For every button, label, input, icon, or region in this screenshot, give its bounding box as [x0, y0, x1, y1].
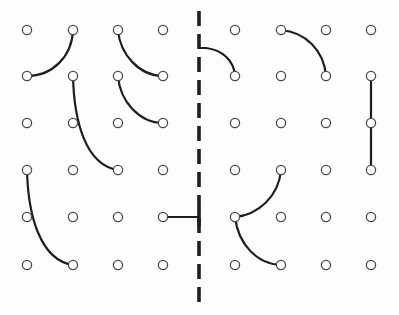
peg-dot — [230, 260, 239, 269]
connection-arc — [27, 170, 73, 265]
peg-dot — [158, 165, 167, 174]
peg-dot — [276, 165, 285, 174]
peg-dot — [276, 118, 285, 127]
peg-dot — [366, 212, 375, 221]
peg-dot — [276, 25, 285, 34]
peg-dot — [158, 260, 167, 269]
peg-dot — [230, 25, 239, 34]
peg-dot — [230, 212, 239, 221]
peg-dot — [68, 71, 77, 80]
peg-dot — [321, 165, 330, 174]
peg-dot — [366, 25, 375, 34]
connection-arc — [235, 217, 281, 265]
peg-dot — [22, 165, 31, 174]
connection-arc — [118, 76, 163, 123]
peg-dot — [22, 25, 31, 34]
peg-dot — [321, 260, 330, 269]
peg-dot — [22, 260, 31, 269]
connection-arc — [235, 170, 281, 217]
peg-dot — [158, 118, 167, 127]
peg-dot — [22, 71, 31, 80]
peg-dot — [366, 71, 375, 80]
peg-dot — [230, 71, 239, 80]
peg-dot — [276, 260, 285, 269]
peg-dot — [321, 71, 330, 80]
peg-dot — [276, 71, 285, 80]
connection-arc — [281, 30, 326, 76]
peg-dot — [113, 212, 122, 221]
peg-dot — [68, 212, 77, 221]
diagram-svg — [0, 0, 399, 315]
peg-dot — [158, 71, 167, 80]
peg-dot — [22, 118, 31, 127]
peg-dot — [113, 260, 122, 269]
peg-dot — [366, 165, 375, 174]
peg-dot — [230, 165, 239, 174]
peg-dot — [68, 260, 77, 269]
peg-dot — [113, 118, 122, 127]
connection-arc — [199, 48, 235, 76]
peg-dot — [276, 212, 285, 221]
peg-dot — [366, 260, 375, 269]
peg-diagram — [0, 0, 399, 315]
peg-dot — [366, 118, 375, 127]
connection-arc — [27, 30, 73, 76]
connection-arc — [73, 76, 118, 170]
peg-dot — [113, 165, 122, 174]
peg-dot — [321, 25, 330, 34]
peg-dot — [68, 165, 77, 174]
peg-dot — [113, 25, 122, 34]
peg-dot — [158, 212, 167, 221]
peg-dot — [321, 118, 330, 127]
peg-dot — [68, 118, 77, 127]
peg-dot — [22, 212, 31, 221]
connection-arc — [118, 30, 163, 76]
peg-dot — [158, 25, 167, 34]
peg-dot — [113, 71, 122, 80]
peg-dot — [230, 118, 239, 127]
peg-dot — [68, 25, 77, 34]
peg-dot — [321, 212, 330, 221]
